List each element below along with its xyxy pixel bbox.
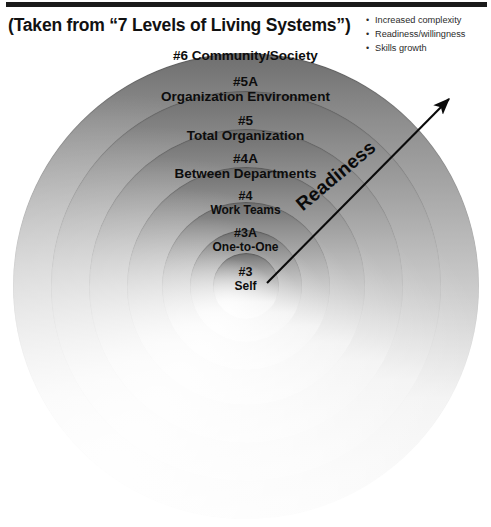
ring-caption-3A: #3AOne-to-One bbox=[0, 226, 491, 254]
ring-caption-name: Organization Environment bbox=[0, 89, 491, 104]
ring-caption-number: #5A bbox=[0, 74, 491, 89]
ring-caption-name: Work Teams bbox=[0, 203, 491, 217]
ring-caption-name: One-to-One bbox=[0, 240, 491, 254]
ring-caption-name: Total Organization bbox=[0, 128, 491, 143]
ring-caption-name: Self bbox=[0, 279, 491, 293]
ring-caption-6: #6 Community/Society bbox=[0, 48, 491, 63]
ring-caption-5A: #5AOrganization Environment bbox=[0, 74, 491, 104]
ring-caption-number: #4A bbox=[0, 151, 491, 166]
ring-caption-5: #5Total Organization bbox=[0, 113, 491, 143]
slide-canvas: (Taken from “7 Levels of Living Systems”… bbox=[0, 0, 491, 527]
ring-caption-number: #3 bbox=[0, 265, 491, 279]
ring-caption-4A: #4ABetween Departments bbox=[0, 151, 491, 181]
ring-caption-text: #6 Community/Society bbox=[0, 48, 491, 63]
ring-caption-number: #3A bbox=[0, 226, 491, 240]
ring-caption-3: #3Self bbox=[0, 265, 491, 293]
ring-caption-number: #5 bbox=[0, 113, 491, 128]
ring-caption-name: Between Departments bbox=[0, 166, 491, 181]
ring-caption-4: #4Work Teams bbox=[0, 189, 491, 217]
ring-caption-number: #4 bbox=[0, 189, 491, 203]
